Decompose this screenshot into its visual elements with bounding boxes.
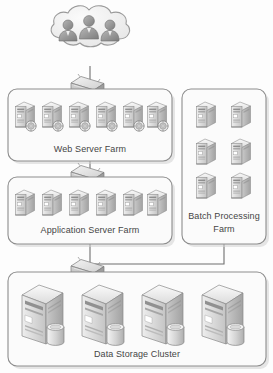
web-server-icon[interactable] <box>147 101 168 131</box>
storage-server-icon[interactable] <box>142 285 184 345</box>
zone-label-data-storage-cluster: Data Storage Cluster <box>94 349 180 359</box>
web-server-icon[interactable] <box>15 101 36 131</box>
zone-data-storage-cluster[interactable]: Data Storage Cluster <box>8 272 269 369</box>
web-server-icon[interactable] <box>42 101 63 131</box>
web-server-icon[interactable] <box>96 101 117 131</box>
storage-server-icon[interactable] <box>202 285 244 345</box>
user-cloud[interactable] <box>51 6 129 47</box>
network-architecture-diagram: Web Server Farm Application Server Farm <box>0 0 273 373</box>
zone-label-application-server-farm: Application Server Farm <box>41 225 140 235</box>
storage-server-icon[interactable] <box>22 285 64 345</box>
zone-label-batch-processing-line2: Farm <box>213 224 234 234</box>
storage-server-icon[interactable] <box>82 285 124 345</box>
zone-batch-processing-farm[interactable]: Batch Processing Farm <box>182 89 269 247</box>
zone-web-server-farm[interactable]: Web Server Farm <box>8 89 175 164</box>
web-server-icon[interactable] <box>69 101 90 131</box>
zone-application-server-farm[interactable]: Application Server Farm <box>8 177 175 247</box>
zone-label-batch-processing-line1: Batch Processing <box>188 211 260 221</box>
web-server-icon[interactable] <box>123 101 144 131</box>
zone-label-web-server-farm: Web Server Farm <box>54 144 126 154</box>
